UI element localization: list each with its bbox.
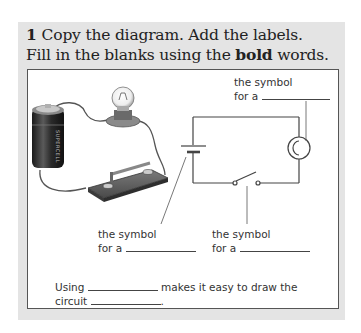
light-bulb-icon [106,87,140,127]
sentence-period: . [161,295,164,307]
label-bulb-symbol: the symbol for a [234,75,330,103]
switch-symbol-icon [233,172,260,185]
blank-cell[interactable] [126,241,196,252]
bulb-symbol-icon [288,137,310,159]
blank-bulb[interactable] [262,89,330,100]
label-cell-symbol: the symbol for a [98,227,196,255]
label-switch-symbol: the symbol for a [212,227,310,255]
sentence-using: Using [55,281,84,293]
label-switch-line2: for a [212,242,236,254]
label-cell-line1: the symbol [98,227,196,241]
blank-switch[interactable] [240,241,310,252]
battery-icon: SUPERCELL [32,104,64,168]
label-cell-line2: for a [98,242,122,254]
sentence-circuit: circuit [55,295,87,307]
label-switch-line1: the symbol [212,227,310,241]
svg-text:SUPERCELL: SUPERCELL [55,130,61,163]
sentence-middle: makes it easy to draw the [161,281,297,293]
blank-sentence-1[interactable] [88,280,158,291]
label-bulb-line2: for a [234,90,258,102]
fill-in-sentence: Using makes it easy to draw the circuit … [55,280,297,308]
cell-symbol-icon [181,146,206,152]
circuit-diagram [193,117,299,183]
blank-sentence-2[interactable] [91,294,161,305]
leader-lines [161,101,306,224]
switch-illustration-icon [88,163,168,202]
label-bulb-line1: the symbol [234,75,330,89]
